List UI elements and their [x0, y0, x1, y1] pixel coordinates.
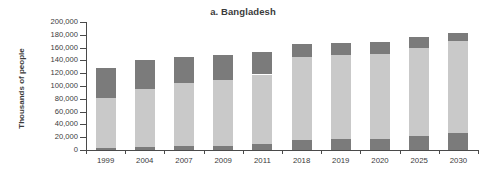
x-axis-tick — [125, 150, 126, 154]
bar-segment-bottom — [370, 139, 390, 150]
bar-segment-top — [213, 55, 233, 80]
plot-area — [86, 22, 478, 150]
y-axis-tick-label: 120,000 — [32, 69, 78, 77]
y-axis-tick — [80, 112, 86, 113]
bar-segment-bottom — [331, 139, 351, 150]
bar-segment-middle — [252, 75, 272, 145]
bar-stack[interactable] — [135, 60, 155, 150]
bar-stack[interactable] — [448, 33, 468, 150]
bar-stack[interactable] — [292, 44, 312, 150]
x-axis-tick — [478, 150, 479, 154]
bar-segment-top — [96, 68, 116, 97]
bar-segment-middle — [331, 55, 351, 139]
bar-segment-middle — [409, 48, 429, 136]
y-axis-tick — [80, 48, 86, 49]
x-axis-tick-label: 2019 — [324, 157, 358, 165]
y-axis-tick-label: 20,000 — [32, 133, 78, 141]
x-axis-tick — [243, 150, 244, 154]
x-axis-tick — [164, 150, 165, 154]
bar-segment-top — [135, 60, 155, 89]
y-axis-tick-label: 80,000 — [32, 95, 78, 103]
x-axis-tick-label: 2007 — [167, 157, 201, 165]
bar-segment-bottom — [448, 133, 468, 150]
y-axis-tick-label: 140,000 — [32, 56, 78, 64]
bar-segment-top — [409, 37, 429, 47]
bar-segment-middle — [135, 89, 155, 147]
bar-segment-middle — [174, 83, 194, 146]
x-axis-tick — [321, 150, 322, 154]
x-axis-tick — [282, 150, 283, 154]
y-axis-tick-label: 100,000 — [32, 82, 78, 90]
y-axis-tick-labels: 020,00040,00060,00080,000100,000120,0001… — [28, 0, 78, 176]
bar-segment-top — [292, 44, 312, 57]
bar-segment-top — [370, 42, 390, 54]
y-axis-tick — [80, 137, 86, 138]
x-axis-tick-label: 2011 — [245, 157, 279, 165]
x-axis-tick-label: 2020 — [363, 157, 397, 165]
y-axis-tick-label: 180,000 — [32, 31, 78, 39]
x-axis-tick-label: 1999 — [89, 157, 123, 165]
bar-segment-middle — [448, 41, 468, 133]
bar-segment-bottom — [174, 146, 194, 150]
x-axis-tick-label: 2018 — [285, 157, 319, 165]
y-axis-tick-label: 60,000 — [32, 108, 78, 116]
y-axis-tick-label: 0 — [32, 146, 78, 154]
bar-stack[interactable] — [174, 57, 194, 150]
y-axis-tick — [80, 22, 86, 23]
x-axis-tick-label: 2009 — [206, 157, 240, 165]
bar-segment-bottom — [292, 140, 312, 150]
bar-stack[interactable] — [252, 52, 272, 150]
y-axis-tick — [80, 86, 86, 87]
bar-segment-middle — [213, 80, 233, 146]
bar-segment-bottom — [409, 136, 429, 150]
x-axis-tick-label: 2030 — [441, 157, 475, 165]
x-axis-tick-label: 2004 — [128, 157, 162, 165]
bar-segment-bottom — [252, 144, 272, 150]
bar-segment-middle — [370, 54, 390, 139]
y-axis-tick — [80, 73, 86, 74]
bar-stack[interactable] — [331, 43, 351, 150]
y-axis-tick-label: 200,000 — [32, 18, 78, 26]
bar-segment-bottom — [213, 146, 233, 150]
y-axis-title: Thousands of people — [17, 29, 26, 149]
bar-segment-bottom — [96, 148, 116, 150]
bar-segment-middle — [96, 98, 116, 149]
bar-stack[interactable] — [409, 37, 429, 150]
bar-segment-bottom — [135, 147, 155, 150]
y-axis-tick — [80, 99, 86, 100]
y-axis-tick — [80, 60, 86, 61]
y-axis-tick — [80, 124, 86, 125]
bar-segment-top — [331, 43, 351, 55]
x-axis-tick — [204, 150, 205, 154]
chart-figure: a. Bangladesh Thousands of people 020,00… — [0, 0, 486, 176]
y-axis-tick — [80, 35, 86, 36]
bar-segment-top — [252, 52, 272, 74]
y-axis-tick-label: 160,000 — [32, 44, 78, 52]
x-axis-tick — [400, 150, 401, 154]
bar-segment-middle — [292, 57, 312, 140]
bar-stack[interactable] — [213, 55, 233, 150]
x-axis-tick — [86, 150, 87, 154]
bar-segment-top — [448, 33, 468, 41]
bar-segment-top — [174, 57, 194, 84]
bar-stack[interactable] — [370, 42, 390, 150]
x-axis-tick — [360, 150, 361, 154]
bar-stack[interactable] — [96, 68, 116, 150]
x-axis-tick-label: 2025 — [402, 157, 436, 165]
x-axis-tick — [439, 150, 440, 154]
y-axis-tick-label: 40,000 — [32, 120, 78, 128]
